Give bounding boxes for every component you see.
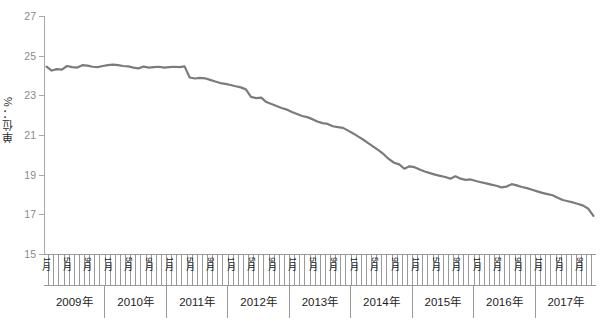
- y-tick-label: 23: [14, 90, 36, 100]
- year-group-label: 2017年: [547, 296, 584, 308]
- year-group-cell: 2012年: [228, 286, 289, 318]
- y-tick-label: 15: [14, 249, 36, 259]
- year-group-label: 2010年: [117, 296, 154, 308]
- y-tick-label: 17: [14, 209, 36, 219]
- year-group-cell: 2016年: [474, 286, 535, 318]
- year-group-label: 2013年: [302, 296, 339, 308]
- year-group-cell: 2010年: [105, 286, 166, 318]
- series-line: [44, 16, 596, 254]
- year-group-cell: 2013年: [290, 286, 351, 318]
- y-tick-label: 21: [14, 130, 36, 140]
- y-tick-label: 19: [14, 170, 36, 180]
- year-band-baseline: [44, 318, 596, 319]
- month-tick-cell: [592, 255, 596, 285]
- y-tick-label: 27: [14, 11, 36, 21]
- year-group-cell: 2009年: [44, 286, 105, 318]
- year-group-label: 2011年: [179, 296, 215, 308]
- x-axis-year-band: 2009年2010年2011年2012年2013年2014年2015年2016年…: [44, 286, 596, 318]
- y-tick-label: 25: [14, 51, 36, 61]
- year-group-cell: 2011年: [167, 286, 228, 318]
- year-group-cell: 2017年: [536, 286, 596, 318]
- line-chart: 单位：% 15171921232527 1月5月9月1月5月9月1月5月9月1月…: [0, 0, 602, 329]
- year-group-cell: 2015年: [413, 286, 474, 318]
- year-group-label: 2015年: [425, 296, 462, 308]
- year-group-label: 2014年: [363, 296, 400, 308]
- x-axis-month-band: 1月5月9月1月5月9月1月5月9月1月5月9月1月5月9月1月5月9月1月5月…: [44, 254, 596, 286]
- year-group-label: 2009年: [56, 296, 93, 308]
- plot-area: [44, 16, 596, 254]
- year-group-label: 2012年: [240, 296, 277, 308]
- year-group-cell: 2014年: [351, 286, 412, 318]
- year-group-label: 2016年: [486, 296, 523, 308]
- series-polyline: [47, 65, 594, 216]
